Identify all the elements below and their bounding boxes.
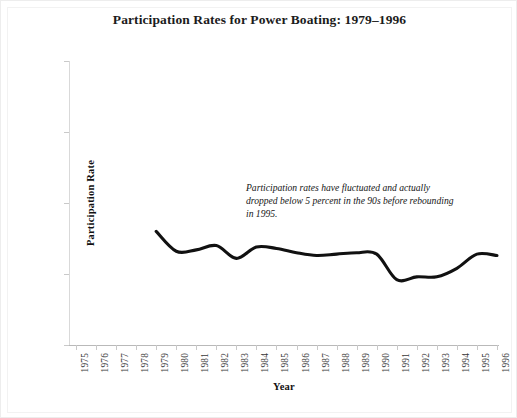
x-axis-tick-label: 1988 — [341, 353, 351, 372]
x-axis-tick-label: 1981 — [200, 353, 210, 372]
x-axis-tick-label: 1992 — [421, 353, 431, 372]
x-axis-tick-label: 1994 — [461, 353, 471, 372]
x-axis-tick-label: 1989 — [361, 353, 371, 372]
x-axis-tick-label: 1996 — [501, 353, 511, 372]
x-axis-tick-label: 1975 — [80, 353, 90, 372]
x-axis-tick-label: 1980 — [180, 353, 190, 372]
chart-annotation: Participation rates have fluctuated and … — [246, 181, 461, 221]
x-axis-tick-label: 1978 — [140, 353, 150, 372]
x-axis-tick-label: 1976 — [100, 353, 110, 372]
plot-area: Participation Rate Year 0.0%5.0%10.0%15.… — [69, 61, 499, 345]
x-axis-tick-label: 1995 — [481, 353, 491, 372]
x-axis-title: Year — [69, 381, 499, 392]
x-axis-tick-label: 1983 — [240, 353, 250, 372]
x-axis-tick-label: 1990 — [381, 353, 391, 372]
x-axis-tick-label: 1987 — [321, 353, 331, 372]
x-axis-tick-label: 1979 — [160, 353, 170, 372]
x-axis-tick-label: 1993 — [441, 353, 451, 372]
chart-title: Participation Rates for Power Boating: 1… — [1, 12, 517, 28]
x-axis-tick-label: 1985 — [280, 353, 290, 372]
x-axis-tick-label: 1986 — [301, 353, 311, 372]
chart-frame: Participation Rates for Power Boating: 1… — [0, 0, 517, 418]
x-axis-tick-label: 1991 — [401, 353, 411, 372]
x-axis-tick-label: 1982 — [220, 353, 230, 372]
x-axis-tick-label: 1977 — [120, 353, 130, 372]
x-axis-tick-label: 1984 — [260, 353, 270, 372]
